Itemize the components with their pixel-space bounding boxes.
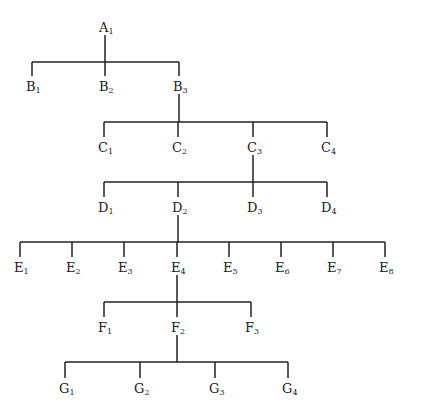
node-b3: B3	[173, 79, 188, 95]
node-e8: E8	[379, 260, 394, 276]
node-b2: B2	[99, 79, 114, 95]
node-a1: A1	[98, 20, 113, 36]
node-c2: C2	[172, 140, 187, 156]
node-c1: C1	[98, 140, 113, 156]
node-f1: F1	[98, 320, 112, 336]
node-d4: D4	[321, 200, 337, 216]
node-e4: E4	[171, 260, 186, 276]
node-c3: C3	[247, 140, 262, 156]
node-g2: G2	[134, 381, 149, 397]
tree-nodes: A1B1B2B3C1C2C3C4D1D2D3D4E1E2E3E4E5E6E7E8…	[14, 20, 394, 397]
node-b1: B1	[26, 79, 41, 95]
node-e1: E1	[14, 260, 29, 276]
node-e5: E5	[223, 260, 238, 276]
node-c4: C4	[321, 140, 336, 156]
node-d1: D1	[98, 200, 114, 216]
node-e7: E7	[327, 260, 342, 276]
node-d2: D2	[172, 200, 188, 216]
node-e3: E3	[118, 260, 133, 276]
node-f3: F3	[245, 320, 259, 336]
tree-diagram: A1B1B2B3C1C2C3C4D1D2D3D4E1E2E3E4E5E6E7E8…	[0, 0, 421, 408]
node-e2: E2	[66, 260, 81, 276]
node-g3: G3	[209, 381, 224, 397]
node-g4: G4	[282, 381, 297, 397]
node-g1: G1	[59, 381, 74, 397]
node-d3: D3	[247, 200, 263, 216]
node-e6: E6	[275, 260, 290, 276]
node-f2: F2	[171, 320, 185, 336]
